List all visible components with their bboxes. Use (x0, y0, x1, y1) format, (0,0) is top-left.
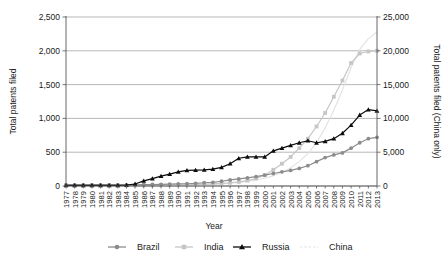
x-tick-label-33: 2010 (347, 191, 356, 208)
x-tick-label-10: 1987 (148, 191, 157, 208)
marker-india (332, 95, 336, 99)
x-tick-label-7: 1984 (122, 191, 131, 208)
x-tick-label-17: 1994 (209, 191, 218, 208)
marker-brazil (349, 146, 353, 150)
legend-item-china[interactable]: China (300, 242, 353, 252)
marker-brazil (194, 181, 198, 185)
x-tick-label-0: 1977 (62, 191, 71, 208)
marker-brazil (315, 160, 319, 164)
x-tick-label-34: 2011 (356, 191, 365, 207)
x-tick-label-16: 1993 (200, 191, 209, 208)
marker-brazil (289, 169, 293, 173)
legend-label-russia: Russia (262, 242, 290, 252)
x-tick-label-2: 1979 (79, 191, 88, 208)
marker-india (315, 125, 319, 129)
x-tick-label-27: 2004 (295, 191, 304, 208)
x-tick-label-26: 2003 (287, 191, 296, 208)
x-tick-label-29: 2006 (313, 191, 322, 208)
y-tick-label-left-0: 0 (55, 181, 60, 191)
x-tick-label-3: 1980 (88, 191, 97, 208)
x-tick-label-18: 1995 (218, 191, 227, 208)
legend-item-russia[interactable]: Russia (233, 242, 290, 252)
marker-brazil (323, 156, 327, 160)
x-tick-label-24: 2001 (269, 191, 278, 208)
marker-brazil (220, 179, 224, 183)
x-tick-label-12: 1989 (166, 191, 175, 208)
x-tick-label-25: 2002 (278, 191, 287, 208)
marker-brazil (228, 178, 232, 182)
x-axis-title: Year (205, 221, 222, 231)
legend-label-india: India (204, 242, 224, 252)
marker-india (366, 50, 370, 54)
marker-brazil (332, 153, 336, 157)
marker-brazil (280, 170, 284, 174)
x-tick-label-35: 2012 (364, 191, 373, 208)
chart-canvas: 05001,0001,5002,0002,50005,00010,00015,0… (0, 0, 445, 263)
marker-brazil (366, 137, 370, 141)
marker-brazil (306, 164, 310, 168)
series-line-russia (66, 110, 377, 186)
y-axis-left-title: Total patents filed (8, 68, 18, 134)
marker-brazil (202, 181, 206, 185)
x-tick-label-1: 1978 (71, 191, 80, 208)
y-tick-label-left-4: 2,000 (39, 46, 61, 56)
marker-brazil (254, 175, 258, 179)
y-tick-label-right-1: 5,000 (383, 147, 405, 157)
marker-brazil (341, 151, 345, 155)
y-tick-label-left-2: 1,000 (39, 113, 61, 123)
marker-brazil (237, 177, 241, 181)
marker-brazil (211, 180, 215, 184)
x-tick-label-28: 2005 (304, 191, 313, 208)
marker-brazil (176, 182, 180, 186)
marker-brazil (246, 176, 250, 180)
x-tick-label-14: 1991 (183, 191, 192, 208)
legend-item-india[interactable]: India (175, 242, 224, 252)
x-tick-label-11: 1988 (157, 191, 166, 208)
y-tick-label-right-2: 10,000 (383, 113, 409, 123)
marker-brazil (263, 173, 267, 177)
legend-label-china: China (329, 242, 353, 252)
y-tick-label-left-1: 500 (46, 147, 60, 157)
x-tick-label-30: 2007 (321, 191, 330, 208)
y-tick-label-left-3: 1,500 (39, 80, 61, 90)
x-tick-label-8: 1985 (131, 191, 140, 208)
marker-india (323, 111, 327, 115)
x-tick-label-21: 1998 (243, 191, 252, 208)
x-tick-label-36: 2013 (373, 191, 382, 208)
marker-india (349, 61, 353, 65)
y-axis-right-title: Total patents filed (China only) (432, 44, 442, 159)
marker-india (289, 155, 293, 159)
marker-brazil (168, 182, 172, 186)
legend-swatch-marker-brazil (115, 245, 120, 250)
series-line-china (66, 32, 377, 186)
marker-india (358, 52, 362, 56)
marker-india (271, 168, 275, 172)
x-tick-label-23: 2000 (261, 191, 270, 208)
x-tick-label-19: 1996 (226, 191, 235, 208)
legend-item-brazil[interactable]: Brazil (108, 242, 160, 252)
y-tick-label-left-5: 2,500 (39, 12, 61, 22)
x-tick-label-20: 1997 (235, 191, 244, 208)
marker-brazil (358, 141, 362, 145)
marker-india (297, 146, 301, 150)
marker-brazil (271, 172, 275, 176)
y-tick-label-right-0: 0 (383, 181, 388, 191)
x-tick-label-9: 1986 (140, 191, 149, 208)
y-tick-label-right-3: 15,000 (383, 80, 409, 90)
x-tick-label-5: 1982 (105, 191, 114, 208)
marker-india (341, 79, 345, 83)
series-line-brazil (66, 137, 377, 184)
legend-swatch-marker-india (182, 245, 187, 250)
legend-label-brazil: Brazil (137, 242, 160, 252)
patent-trends-chart: 05001,0001,5002,0002,50005,00010,00015,0… (0, 0, 445, 263)
y-tick-label-right-4: 20,000 (383, 46, 409, 56)
marker-india (280, 162, 284, 166)
y-tick-label-right-5: 25,000 (383, 12, 409, 22)
x-tick-label-6: 1983 (114, 191, 123, 208)
marker-brazil (185, 182, 189, 186)
x-tick-label-15: 1992 (192, 191, 201, 208)
marker-brazil (297, 167, 301, 171)
x-tick-label-32: 2009 (338, 191, 347, 208)
